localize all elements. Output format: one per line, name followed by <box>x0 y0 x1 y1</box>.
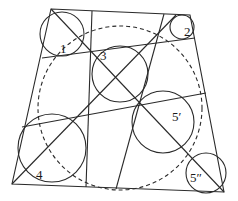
circle-4 <box>18 114 86 182</box>
circle-label-4: 4 <box>36 167 43 182</box>
quadrilateral <box>12 9 224 192</box>
quadrilateral-outline <box>12 9 224 192</box>
circle-label-1: 1 <box>60 41 67 56</box>
geometric-diagram: 12345′5″ <box>0 0 238 201</box>
circle-label-3: 3 <box>100 48 107 63</box>
circle-label-5pp: 5″ <box>190 170 202 185</box>
circle-label-5p: 5′ <box>172 109 182 124</box>
construction-lines <box>12 9 224 192</box>
circle-5p <box>132 91 194 153</box>
main-diagonal-line <box>51 9 224 192</box>
anti-diagonal-line <box>12 15 176 184</box>
left-vertical-line <box>86 11 92 187</box>
circle-label-2: 2 <box>184 24 191 39</box>
